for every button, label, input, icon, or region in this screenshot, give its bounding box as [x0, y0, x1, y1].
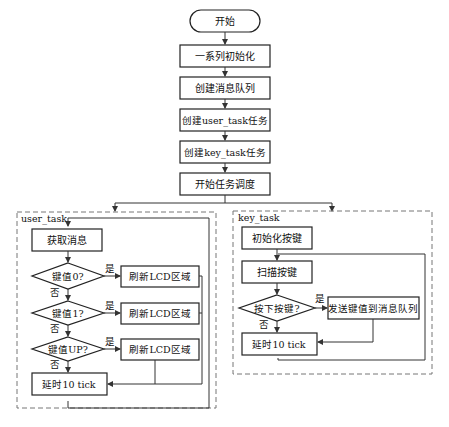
svg-text:刷新LCD区域: 刷新LCD区域 — [129, 271, 190, 282]
svg-text:创建key_task任务: 创建key_task任务 — [184, 147, 266, 159]
svg-text:创建消息队列: 创建消息队列 — [195, 82, 255, 94]
scan-keys-box: 扫描按键 — [242, 261, 312, 283]
svg-text:key_task: key_task — [238, 212, 280, 224]
step-create-user-task: 创建user_task任务 — [180, 109, 270, 131]
svg-text:键值1?: 键值1? — [52, 308, 83, 319]
decision-key1: 键值1? — [32, 301, 104, 325]
refresh-lcd-1: 刷新LCD区域 — [121, 303, 199, 324]
svg-text:开始: 开始 — [215, 15, 235, 27]
svg-text:user_task: user_task — [21, 213, 67, 225]
svg-text:扫描按键: 扫描按键 — [257, 266, 297, 278]
svg-text:按下按键?: 按下按键? — [254, 303, 299, 314]
svg-text:刷新LCD区域: 刷新LCD区域 — [129, 344, 190, 355]
svg-text:否: 否 — [50, 323, 60, 334]
svg-text:否: 否 — [259, 319, 269, 330]
svg-text:创建user_task任务: 创建user_task任务 — [182, 115, 268, 127]
step-create-key-task: 创建key_task任务 — [180, 141, 270, 163]
svg-text:是: 是 — [105, 263, 115, 274]
decision-key-pressed: 按下按键? — [239, 295, 315, 321]
svg-text:键值0?: 键值0? — [52, 271, 83, 282]
svg-text:延时10 tick: 延时10 tick — [42, 379, 95, 390]
step-init: 一系列初始化 — [180, 45, 270, 67]
svg-text:是: 是 — [315, 293, 325, 304]
decision-keyup: 键值UP? — [32, 337, 104, 361]
svg-text:开始任务调度: 开始任务调度 — [195, 178, 255, 190]
svg-text:延时10 tick: 延时10 tick — [252, 339, 305, 350]
svg-text:是: 是 — [105, 336, 115, 347]
start-terminal: 开始 — [190, 10, 260, 32]
svg-text:刷新LCD区域: 刷新LCD区域 — [129, 308, 190, 319]
refresh-lcd-up: 刷新LCD区域 — [121, 339, 199, 360]
step-create-queue: 创建消息队列 — [180, 77, 270, 99]
svg-text:是: 是 — [105, 300, 115, 311]
user-delay-box: 延时10 tick — [32, 373, 107, 395]
svg-text:否: 否 — [50, 359, 60, 370]
init-keys-box: 初始化按键 — [242, 227, 312, 249]
svg-text:一系列初始化: 一系列初始化 — [195, 50, 255, 62]
get-message-box: 获取消息 — [32, 229, 102, 251]
send-key-to-queue-box: 发送键值到消息队列 — [328, 297, 419, 319]
svg-text:发送键值到消息队列: 发送键值到消息队列 — [328, 303, 418, 314]
key-delay-box: 延时10 tick — [242, 333, 317, 355]
svg-text:获取消息: 获取消息 — [47, 234, 87, 246]
svg-text:否: 否 — [50, 287, 60, 298]
svg-text:键值UP?: 键值UP? — [48, 344, 88, 355]
svg-text:初始化按键: 初始化按键 — [252, 232, 302, 244]
decision-key0: 键值0? — [32, 263, 104, 289]
refresh-lcd-0: 刷新LCD区域 — [121, 266, 199, 287]
flowchart-canvas: 开始 一系列初始化 创建消息队列 创建user_task任务 创建key_tas… — [0, 0, 449, 427]
step-start-scheduler: 开始任务调度 — [180, 173, 270, 195]
